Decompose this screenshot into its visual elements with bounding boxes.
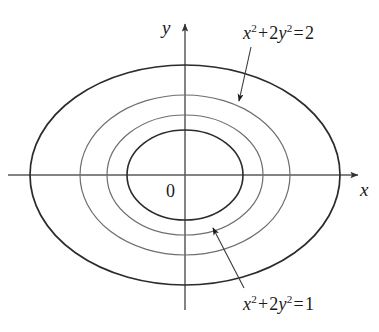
equation-inner-value: 1 <box>305 294 314 314</box>
equation-label-outer: x2+2y2=2 <box>243 24 314 42</box>
equation-inner-coefficient: 2 <box>269 294 278 314</box>
origin-label: 0 <box>166 182 175 200</box>
axes-group <box>8 24 358 310</box>
leader-line-inner-equation <box>213 228 244 288</box>
equation-inner-y-var: y <box>279 294 287 314</box>
figure-canvas <box>0 0 379 332</box>
equation-outer-y-var: y <box>279 23 287 43</box>
equation-label-inner: x2+2y2=1 <box>243 295 314 313</box>
equation-inner-y-exponent: 2 <box>287 293 293 305</box>
equation-outer-equals: = <box>293 23 305 43</box>
level-curves-figure: x2+2y2=2 x2+2y2=1 y x 0 <box>0 0 379 332</box>
equation-outer-coefficient: 2 <box>269 23 278 43</box>
equation-inner-equals: = <box>293 294 305 314</box>
equation-outer-y-exponent: 2 <box>287 22 293 34</box>
annotation-leaders-group <box>213 47 251 288</box>
equation-inner-plus: + <box>257 294 269 314</box>
equation-outer-x-var: x <box>243 23 251 43</box>
y-axis-label: y <box>162 18 170 37</box>
equation-outer-plus: + <box>257 23 269 43</box>
equation-inner-x-var: x <box>243 294 251 314</box>
x-axis-label: x <box>360 180 368 199</box>
equation-outer-value: 2 <box>305 23 314 43</box>
